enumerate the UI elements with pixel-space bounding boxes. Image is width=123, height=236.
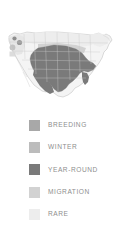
breeding-patch-1 [12,36,16,40]
legend-label-year-round: YEAR-ROUND [48,167,98,174]
legend-label-migration: MIGRATION [48,189,90,196]
legend-item-migration[interactable]: MIGRATION [0,181,123,203]
legend-label-winter: WINTER [48,144,77,151]
legend-swatch-breeding [29,120,40,131]
legend-swatch-rare [29,209,40,220]
legend-item-year-round[interactable]: YEAR-ROUND [0,159,123,181]
legend-label-breeding: BREEDING [48,122,87,129]
bird-range-map-figure: BREEDING WINTER YEAR-ROUND MIGRATION RAR… [0,0,123,236]
breeding-patch-2 [17,40,22,45]
range-map-image [0,14,123,110]
legend-item-breeding[interactable]: BREEDING [0,114,123,136]
legend-swatch-year-round [29,164,40,175]
legend-swatch-migration [29,187,40,198]
us-map-svg [0,14,123,110]
legend-item-rare[interactable]: RARE [0,204,123,226]
legend-swatch-winter [29,142,40,153]
legend-item-winter[interactable]: WINTER [0,136,123,158]
legend-label-rare: RARE [48,211,69,218]
map-legend: BREEDING WINTER YEAR-ROUND MIGRATION RAR… [0,114,123,236]
